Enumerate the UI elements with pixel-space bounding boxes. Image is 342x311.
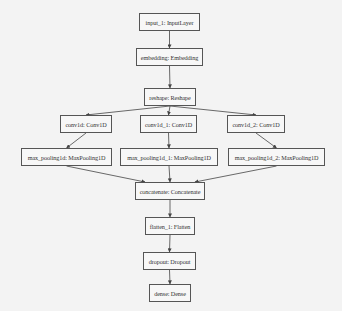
edge-reshape-to-conv1d: [86, 106, 170, 115]
edge-max_pooling1d_1-to-concatenate: [169, 166, 170, 182]
node-reshape: reshape: Reshape: [144, 88, 196, 106]
node-conv1d-2: conv1d_2: Conv1D: [227, 115, 285, 133]
edge-max_pooling1d_2-to-concatenate: [195, 166, 277, 182]
node-input-1: input_1: InputLayer: [139, 13, 200, 31]
edge-reshape-to-conv1d_2: [170, 106, 256, 115]
model-diagram: input_1: InputLayerembedding: Embeddingr…: [0, 0, 342, 311]
edge-conv1d_1-to-max_pooling1d_1: [169, 133, 170, 148]
node-conv1d: conv1d: Conv1D: [60, 115, 112, 133]
node-max-pooling1d: max_pooling1d: MaxPooling1D: [21, 148, 112, 166]
edge-embedding-to-reshape: [170, 66, 171, 88]
edge-reshape-to-conv1d_1: [169, 106, 171, 115]
edge-dropout-to-dense: [170, 270, 171, 284]
node-embedding: embedding: Embedding: [136, 48, 203, 66]
node-max-pooling1d-1: max_pooling1d_1: MaxPooling1D: [120, 148, 218, 166]
node-dropout: dropout: Dropout: [143, 252, 196, 270]
edge-conv1d_2-to-max_pooling1d_2: [256, 133, 277, 148]
edge-conv1d-to-max_pooling1d: [67, 133, 87, 148]
node-dense: dense: Dense: [149, 284, 191, 302]
node-max-pooling1d-2: max_pooling1d_2: MaxPooling1D: [228, 148, 325, 166]
edge-max_pooling1d-to-concatenate: [67, 166, 146, 182]
node-conv1d-1: conv1d_1: Conv1D: [140, 115, 197, 133]
node-concatenate: concatenate: Concatenate: [135, 182, 205, 200]
edge-flatten_1-to-dropout: [170, 235, 171, 252]
node-flatten-1: flatten_1: Flatten: [145, 217, 195, 235]
